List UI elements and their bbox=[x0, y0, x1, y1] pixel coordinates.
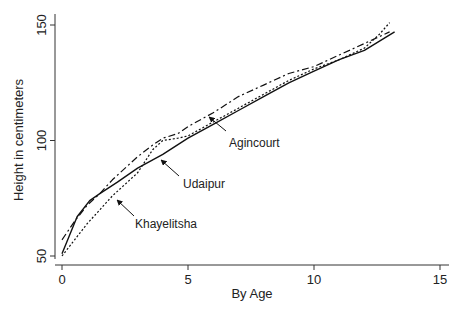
annotation-agincourt-label: Agincourt bbox=[229, 136, 280, 150]
height-by-age-chart: 50100150 051015 Height in centimeters By… bbox=[0, 0, 459, 318]
y-tick-label: 100 bbox=[34, 130, 49, 152]
x-tick-label: 5 bbox=[184, 272, 191, 287]
annotation-khayelitsha: Khayelitsha bbox=[117, 200, 197, 231]
x-tick-label: 10 bbox=[307, 272, 321, 287]
annotation-udaipur: Udaipur bbox=[161, 160, 225, 191]
series-line-agincourt bbox=[62, 32, 390, 240]
x-tick-label: 0 bbox=[58, 272, 65, 287]
y-axis: 50100150 bbox=[34, 14, 55, 263]
x-tick-label: 15 bbox=[433, 272, 447, 287]
series-line-khayelitsha bbox=[62, 23, 390, 256]
y-tick-label: 150 bbox=[34, 14, 49, 36]
annotation-khayelitsha-label: Khayelitsha bbox=[135, 217, 197, 231]
x-axis-title: By Age bbox=[231, 286, 272, 301]
x-axis: 051015 bbox=[55, 265, 449, 287]
y-axis-title: Height in centimeters bbox=[11, 78, 26, 201]
annotation-udaipur-label: Udaipur bbox=[183, 177, 225, 191]
y-tick-label: 50 bbox=[34, 249, 49, 263]
annotation-agincourt: Agincourt bbox=[209, 117, 280, 150]
